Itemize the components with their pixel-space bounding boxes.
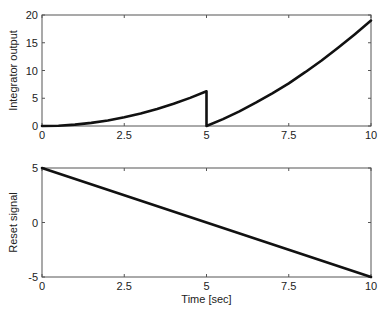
series-line: [42, 168, 371, 277]
x-tick-label: 5: [203, 129, 209, 141]
x-tick-label: 10: [365, 129, 377, 141]
x-tick-label: 2.5: [117, 129, 132, 141]
y-tick-label: 20: [26, 9, 38, 21]
y-axis-label: Integrator output: [7, 30, 19, 111]
y-tick-label: 5: [32, 92, 38, 104]
x-tick-label: 7.5: [281, 129, 296, 141]
x-tick-label: 10: [365, 280, 377, 292]
x-tick-label: 0: [39, 129, 45, 141]
y-tick-label: 0: [32, 120, 38, 132]
y-tick-label: 5: [32, 162, 38, 174]
series-line: [42, 21, 371, 126]
x-axis-label: Time [sec]: [181, 293, 231, 305]
figure: 02.557.51005101520Integrator output 02.5…: [0, 0, 387, 314]
y-axis-label: Reset signal: [7, 192, 19, 253]
x-tick-label: 0: [39, 280, 45, 292]
y-tick-label: 0: [32, 217, 38, 229]
reset-signal-plot: 02.557.510-505Reset signalTime [sec]: [7, 162, 377, 305]
y-tick-label: 10: [26, 65, 38, 77]
integrator-output-plot: 02.557.51005101520Integrator output: [7, 9, 377, 141]
y-tick-label: 15: [26, 37, 38, 49]
chart-canvas: 02.557.51005101520Integrator output 02.5…: [0, 0, 387, 314]
x-tick-label: 2.5: [117, 280, 132, 292]
x-tick-label: 7.5: [281, 280, 296, 292]
y-tick-label: -5: [28, 271, 38, 283]
x-tick-label: 5: [203, 280, 209, 292]
